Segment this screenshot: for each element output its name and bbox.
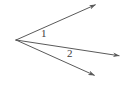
ray-lower — [16, 40, 95, 75]
ray-group — [16, 5, 119, 76]
common-vertex — [15, 39, 17, 41]
angle-label-1: 1 — [41, 28, 47, 39]
angle-diagram-canvas — [0, 0, 123, 87]
angle-diagram: 1 2 — [0, 0, 123, 87]
ray-upper — [16, 5, 96, 40]
angle-label-2: 2 — [67, 48, 73, 59]
